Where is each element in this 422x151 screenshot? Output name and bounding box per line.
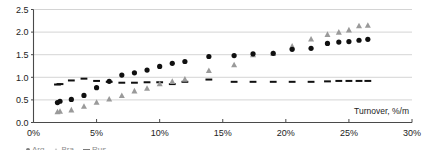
data-point-dash: [144, 81, 151, 83]
x-tick-label: 5%: [90, 128, 103, 138]
data-point-triangle: [119, 92, 125, 98]
data-point-triangle: [308, 36, 314, 42]
data-point-triangle: [68, 107, 74, 113]
series-dashes: [54, 78, 371, 86]
data-point-circle: [107, 79, 112, 84]
data-point-triangle: [346, 27, 352, 33]
data-point-dash: [131, 82, 138, 84]
data-point-circle: [356, 38, 361, 43]
data-point-dash: [289, 81, 296, 83]
y-tick-label: 2.5: [16, 5, 29, 15]
legend-item[interactable]: Arg: [26, 144, 44, 150]
data-point-dash: [250, 81, 257, 83]
data-point-circle: [206, 54, 211, 59]
x-axis-title: Turnover, %/m: [354, 106, 409, 116]
legend-item[interactable]: Bra: [53, 144, 73, 150]
x-tick-label: 25%: [340, 128, 358, 138]
data-point-dash: [81, 78, 88, 80]
series-triangles: [54, 22, 370, 114]
x-tick-label: 15%: [214, 128, 232, 138]
data-point-circle: [170, 61, 175, 66]
data-point-dash: [231, 81, 238, 83]
chart-legend: ArgBraRus: [0, 144, 422, 150]
data-point-dash: [356, 80, 363, 82]
data-point-circle: [250, 51, 255, 56]
data-point-circle: [232, 53, 237, 58]
y-tick-label: 1.5: [16, 50, 29, 60]
data-point-circle: [69, 97, 74, 102]
data-point-dash: [68, 79, 75, 81]
data-point-circle: [182, 59, 187, 64]
data-point-triangle: [106, 96, 112, 102]
data-point-circle: [94, 85, 99, 90]
data-point-triangle: [206, 68, 212, 74]
series-circles: [55, 37, 371, 105]
data-point-circle: [119, 72, 124, 77]
y-tick-label: 2.0: [16, 27, 29, 37]
data-point-dash: [118, 82, 125, 84]
chart-container: 0.00.51.01.52.02.5 0%5%10%15%20%25%30% T…: [0, 0, 422, 150]
data-point-dash: [335, 80, 342, 82]
scatter-chart: 0.00.51.01.52.02.5 0%5%10%15%20%25%30% T…: [0, 0, 422, 150]
data-point-triangle: [81, 103, 87, 109]
data-point-circle: [308, 46, 313, 51]
data-point-circle: [365, 37, 370, 42]
data-point-dash: [324, 80, 331, 82]
data-point-dash: [270, 81, 277, 83]
y-tick-label: 0.0: [16, 118, 29, 128]
y-axis-tick-labels: 0.00.51.01.52.02.5: [16, 5, 34, 128]
legend-marker-circle-icon: [26, 148, 30, 150]
x-axis-tick-labels: 0%5%10%15%20%25%30%: [27, 128, 421, 138]
y-tick-label: 1.0: [16, 73, 29, 83]
data-point-circle: [144, 67, 149, 72]
data-point-dash: [205, 79, 212, 81]
data-point-dash: [308, 81, 315, 83]
x-tick-label: 10%: [151, 128, 169, 138]
data-point-triangle: [169, 78, 175, 84]
gridlines: [34, 10, 413, 100]
data-point-dash: [364, 80, 371, 82]
data-point-dash: [57, 83, 64, 85]
x-tick-label: 0%: [27, 128, 40, 138]
legend-label: Bra: [61, 144, 73, 150]
data-point-triangle: [131, 88, 137, 94]
data-point-circle: [346, 39, 351, 44]
legend-label: Arg: [32, 144, 44, 150]
legend-label: Rus: [92, 144, 106, 150]
data-point-dash: [93, 80, 100, 82]
data-point-circle: [157, 64, 162, 69]
data-point-triangle: [144, 85, 150, 91]
data-point-circle: [132, 70, 137, 75]
legend-marker-triangle-icon: [53, 148, 59, 151]
data-point-dash: [346, 80, 353, 82]
data-point-circle: [290, 47, 295, 52]
data-point-triangle: [356, 23, 362, 29]
data-point-circle: [336, 39, 341, 44]
legend-item[interactable]: Rus: [83, 144, 106, 150]
data-point-triangle: [365, 22, 371, 28]
x-tick-label: 20%: [277, 128, 295, 138]
data-point-circle: [81, 93, 86, 98]
data-point-circle: [271, 51, 276, 56]
data-point-circle: [57, 99, 62, 104]
data-point-triangle: [231, 62, 237, 68]
legend-marker-dash-icon: [83, 149, 90, 150]
data-point-circle: [325, 41, 330, 46]
y-tick-label: 0.5: [16, 95, 29, 105]
x-tick-label: 30%: [403, 128, 421, 138]
